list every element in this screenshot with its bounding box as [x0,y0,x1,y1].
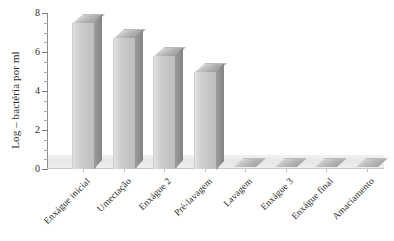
bar-side-face [94,14,102,169]
x-tick [205,169,206,172]
bar-side-face [216,63,224,169]
bar-side-face [175,47,183,169]
x-tick [164,169,165,172]
x-tick [367,169,368,172]
bar-chart: Log – bactéria por ml 02468 Enxágue inic… [0,0,394,241]
x-tick [83,169,84,172]
bar-top-face [356,158,388,167]
bar-top-face [315,158,347,167]
x-tick [124,169,125,172]
bar-top-face [275,158,307,167]
x-tick [326,169,327,172]
x-tick [245,169,246,172]
bar-front-face [72,23,96,169]
x-tick [286,169,287,172]
bar-front-face [153,56,177,169]
bar-front-face [113,38,137,169]
bar-side-face [135,29,143,169]
bar-top-face [234,158,266,167]
bar-front-face [194,72,218,170]
